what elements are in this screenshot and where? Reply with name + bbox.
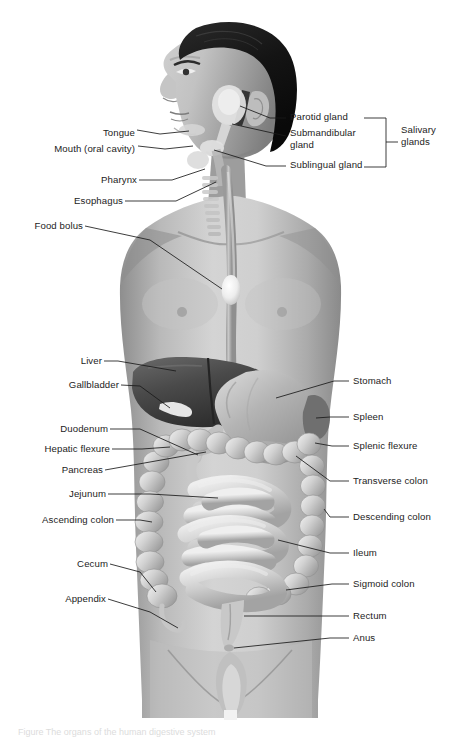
label-anus: Anus bbox=[353, 632, 375, 644]
label-salivary-glands-line1: Salivary bbox=[401, 124, 436, 136]
label-mouth-oral-cavity: Mouth (oral cavity) bbox=[13, 143, 135, 155]
anatomy-illustration bbox=[0, 0, 460, 740]
label-gallbladder: Gallbladder bbox=[30, 379, 119, 391]
label-rectum: Rectum bbox=[353, 610, 387, 622]
label-splenic-flexure: Splenic flexure bbox=[353, 440, 417, 452]
label-food-bolus: Food bolus bbox=[0, 220, 83, 232]
label-duodenum: Duodenum bbox=[30, 423, 108, 435]
label-salivary-glands-line2: glands bbox=[401, 136, 430, 148]
label-tongue: Tongue bbox=[55, 127, 135, 139]
label-stomach: Stomach bbox=[353, 375, 392, 387]
label-appendix: Appendix bbox=[32, 593, 106, 605]
label-jejunum: Jejunum bbox=[40, 488, 106, 500]
label-liver: Liver bbox=[52, 355, 102, 367]
label-sigmoid-colon: Sigmoid colon bbox=[353, 578, 415, 590]
label-cecum: Cecum bbox=[52, 558, 108, 570]
digestive-system-figure bbox=[0, 0, 460, 740]
label-transverse-colon: Transverse colon bbox=[353, 475, 428, 487]
label-parotid-gland: Parotid gland bbox=[290, 111, 348, 123]
food-bolus bbox=[222, 275, 241, 305]
label-esophagus: Esophagus bbox=[33, 195, 123, 207]
salivary-glands-bracket bbox=[364, 118, 398, 167]
label-submandibular-gland-line2: gland bbox=[290, 139, 314, 151]
figure-caption: Figure The organs of the human digestive… bbox=[18, 727, 438, 739]
label-submandibular-gland-line1: Submandibular bbox=[290, 127, 356, 139]
label-ileum: Ileum bbox=[353, 547, 377, 559]
label-hepatic-flexure: Hepatic flexure bbox=[18, 443, 110, 455]
label-pancreas: Pancreas bbox=[33, 464, 103, 476]
label-spleen: Spleen bbox=[353, 411, 383, 423]
label-descending-colon: Descending colon bbox=[353, 511, 431, 523]
label-sublingual-gland: Sublingual gland bbox=[290, 159, 363, 171]
label-pharynx: Pharynx bbox=[57, 174, 137, 186]
label-ascending-colon: Ascending colon bbox=[12, 514, 114, 526]
